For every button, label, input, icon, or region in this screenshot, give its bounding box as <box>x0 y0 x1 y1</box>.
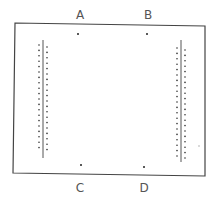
electrode-dots <box>38 44 186 159</box>
right-electrode-dot <box>184 114 186 116</box>
left-electrode-dot <box>46 122 48 124</box>
left-electrode-dot <box>38 55 40 57</box>
right-electrode-dot <box>184 141 186 143</box>
left-electrode-dot <box>38 109 40 111</box>
point-d <box>143 166 145 168</box>
right-electrode-dot <box>176 53 178 55</box>
right-electrode-dot <box>176 80 178 82</box>
right-electrode-dot <box>184 152 186 154</box>
right-electrode-dot <box>184 103 186 105</box>
right-electrode-dot <box>176 128 178 130</box>
right-electrode-dot <box>176 139 178 141</box>
label-a: A <box>76 8 85 22</box>
frame-border <box>13 23 205 176</box>
left-electrode-dot <box>46 62 48 64</box>
left-electrode-dot <box>38 50 40 52</box>
left-electrode-dot <box>46 57 48 59</box>
right-electrode-dot <box>176 155 178 157</box>
label-c: C <box>76 181 84 195</box>
right-electrode-dot <box>184 60 186 62</box>
left-electrode-dot <box>46 133 48 135</box>
left-electrode-dot <box>46 127 48 129</box>
left-electrode-dot <box>38 93 40 95</box>
right-electrode-dot <box>184 130 186 132</box>
right-electrode-dot <box>184 109 186 111</box>
left-electrode-dot <box>38 125 40 127</box>
right-electrode-dot <box>176 69 178 71</box>
right-electrode-dot <box>176 63 178 65</box>
left-electrode-dot <box>46 73 48 75</box>
right-electrode-dot <box>176 123 178 125</box>
left-electrode-dot <box>38 120 40 122</box>
left-electrode-dot <box>46 89 48 91</box>
left-electrode-dot <box>38 104 40 106</box>
left-electrode-dot <box>38 44 40 46</box>
marker-labels: ABCD <box>76 8 152 195</box>
left-electrode-dot <box>38 141 40 143</box>
point-c <box>80 164 82 166</box>
right-electrode-dot <box>184 98 186 100</box>
right-electrode-dot <box>176 117 178 119</box>
left-electrode-dot <box>46 79 48 81</box>
label-b: B <box>144 8 152 22</box>
right-electrode-dot <box>184 146 186 148</box>
right-electrode-dot <box>176 74 178 76</box>
left-electrode-dot <box>38 82 40 84</box>
left-electrode-dot <box>38 147 40 149</box>
right-electrode-dot <box>176 107 178 109</box>
marker-points <box>77 33 148 168</box>
right-electrode-dot <box>176 144 178 146</box>
left-electrode-dot <box>38 60 40 62</box>
right-electrode-dot <box>184 76 186 78</box>
point-b <box>146 33 148 35</box>
left-electrode-dot <box>38 87 40 89</box>
left-electrode-dot <box>38 131 40 133</box>
right-electrode-dot <box>176 112 178 114</box>
right-electrode-dot <box>184 55 186 57</box>
right-electrode-dot <box>184 119 186 121</box>
left-electrode-dot <box>38 136 40 138</box>
left-electrode-dot <box>46 46 48 48</box>
left-electrode-dot <box>38 98 40 100</box>
right-electrode-dot <box>184 65 186 67</box>
right-electrode-dot <box>184 92 186 94</box>
left-electrode-dot <box>46 111 48 113</box>
point-a <box>77 33 79 35</box>
right-electrode-dot <box>184 82 186 84</box>
left-electrode-dot <box>38 77 40 79</box>
left-electrode-dot <box>46 149 48 151</box>
right-electrode-dot <box>176 47 178 49</box>
left-electrode-dot <box>38 114 40 116</box>
field-diagram: ABCD <box>0 0 213 200</box>
right-electrode-dot <box>176 134 178 136</box>
right-electrode-dot <box>176 96 178 98</box>
right-electrode-dot <box>176 150 178 152</box>
stray-dot <box>198 145 200 147</box>
right-electrode-dot <box>184 87 186 89</box>
left-electrode-dot <box>46 100 48 102</box>
left-electrode-dot <box>46 106 48 108</box>
right-electrode-dot <box>176 85 178 87</box>
right-electrode-dot <box>184 49 186 51</box>
left-electrode-dot <box>46 52 48 54</box>
right-electrode-dot <box>176 101 178 103</box>
left-electrode-dot <box>46 116 48 118</box>
right-electrode-dot <box>184 71 186 73</box>
label-d: D <box>139 181 148 195</box>
right-electrode-dot <box>184 157 186 159</box>
left-electrode-dot <box>46 84 48 86</box>
right-electrode-dot <box>176 58 178 60</box>
right-electrode-dot <box>184 125 186 127</box>
right-electrode-dot <box>176 90 178 92</box>
left-electrode-dot <box>46 68 48 70</box>
left-electrode-dot <box>46 95 48 97</box>
left-electrode-dot <box>46 138 48 140</box>
left-electrode-dot <box>38 66 40 68</box>
right-electrode-dot <box>184 136 186 138</box>
left-electrode-dot <box>38 71 40 73</box>
left-electrode-dot <box>46 143 48 145</box>
